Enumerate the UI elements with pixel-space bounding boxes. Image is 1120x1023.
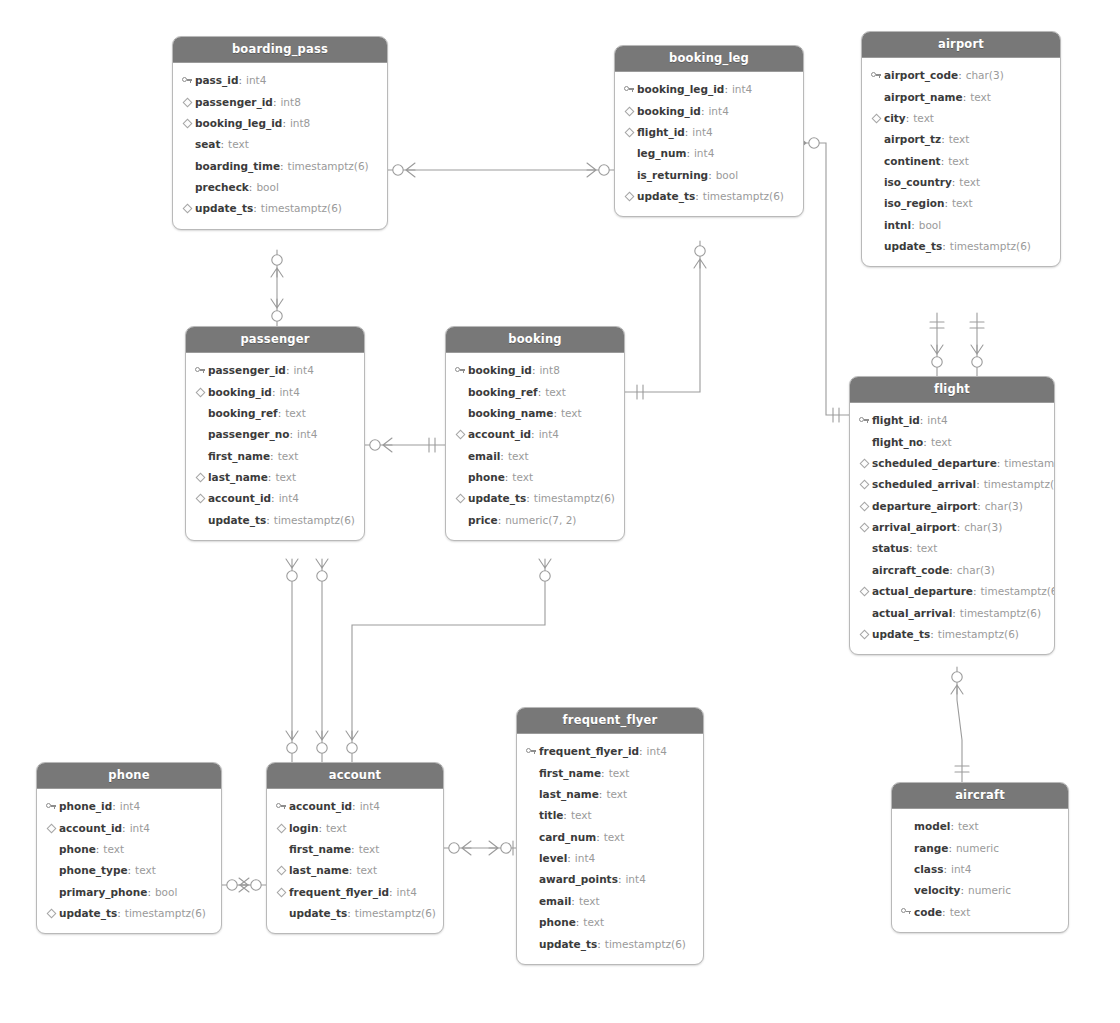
field-row[interactable]: aircraft_code:char(3) <box>850 560 1054 581</box>
field-row[interactable]: booking_id:int4 <box>615 100 803 121</box>
field-row[interactable]: account_id:int4 <box>186 488 364 509</box>
entity-title[interactable]: phone <box>37 763 221 789</box>
field-row[interactable]: pass_id:int4 <box>173 70 387 91</box>
entity-title[interactable]: frequent_flyer <box>517 708 703 734</box>
field-row[interactable]: update_ts:timestamptz(6) <box>37 903 221 924</box>
field-row[interactable]: seat:text <box>173 134 387 155</box>
field-row[interactable]: level:int4 <box>517 848 703 869</box>
field-row[interactable]: phone_type:text <box>37 860 221 881</box>
field-row[interactable]: award_points:int4 <box>517 869 703 890</box>
field-row[interactable]: booking_id:int8 <box>446 360 624 381</box>
field-row[interactable]: model:text <box>892 816 1068 837</box>
field-row[interactable]: precheck:bool <box>173 177 387 198</box>
field-row[interactable]: update_ts:timestamptz(6) <box>186 510 364 531</box>
field-row[interactable]: card_num:text <box>517 827 703 848</box>
entity-passenger[interactable]: passengerpassenger_id:int4booking_id:int… <box>185 326 365 541</box>
field-row[interactable]: last_name:text <box>267 860 443 881</box>
field-row[interactable]: arrival_airport:char(3) <box>850 517 1054 538</box>
field-row[interactable]: phone_id:int4 <box>37 796 221 817</box>
field-row[interactable]: code:text <box>892 902 1068 923</box>
field-row[interactable]: title:text <box>517 805 703 826</box>
entity-title[interactable]: booking <box>446 327 624 353</box>
entity-title[interactable]: airport <box>862 32 1060 58</box>
field-row[interactable]: flight_id:int4 <box>850 410 1054 431</box>
field-row[interactable]: email:text <box>517 891 703 912</box>
field-row[interactable]: airport_code:char(3) <box>862 65 1060 86</box>
field-row[interactable]: last_name:text <box>186 467 364 488</box>
field-row[interactable]: airport_tz:text <box>862 129 1060 150</box>
entity-frequent_flyer[interactable]: frequent_flyerfrequent_flyer_id:int4firs… <box>516 707 704 965</box>
field-row[interactable]: scheduled_departure:timestamptz(6) <box>850 453 1054 474</box>
entity-title[interactable]: aircraft <box>892 783 1068 809</box>
field-row[interactable]: passenger_no:int4 <box>186 424 364 445</box>
field-row[interactable]: booking_id:int4 <box>186 381 364 402</box>
field-row[interactable]: first_name:text <box>186 446 364 467</box>
field-row[interactable]: phone:text <box>446 467 624 488</box>
entity-title[interactable]: passenger <box>186 327 364 353</box>
field-row[interactable]: login:text <box>267 817 443 838</box>
field-row[interactable]: price:numeric(7, 2) <box>446 510 624 531</box>
field-row[interactable]: update_ts:timestamptz(6) <box>517 933 703 954</box>
entity-aircraft[interactable]: aircraftmodel:textrange:numericclass:int… <box>891 782 1069 933</box>
field-row[interactable]: passenger_id:int4 <box>186 360 364 381</box>
field-row[interactable]: is_returning:bool <box>615 165 803 186</box>
field-name: phone <box>59 843 96 856</box>
field-row[interactable]: email:text <box>446 446 624 467</box>
field-row[interactable]: flight_id:int4 <box>615 122 803 143</box>
field-row[interactable]: phone:text <box>517 912 703 933</box>
field-row[interactable]: continent:text <box>862 151 1060 172</box>
field-type: int4 <box>130 822 150 835</box>
field-row[interactable]: city:text <box>862 108 1060 129</box>
field-row[interactable]: range:numeric <box>892 837 1068 858</box>
field-row[interactable]: account_id:int4 <box>37 817 221 838</box>
entity-account[interactable]: accountaccount_id:int4login:textfirst_na… <box>266 762 444 934</box>
field-row[interactable]: flight_no:text <box>850 431 1054 452</box>
entity-title[interactable]: flight <box>850 377 1054 403</box>
field-row[interactable]: booking_leg_id:int8 <box>173 113 387 134</box>
entity-title[interactable]: boarding_pass <box>173 37 387 63</box>
field-row[interactable]: scheduled_arrival:timestamptz(6) <box>850 474 1054 495</box>
field-row[interactable]: booking_name:text <box>446 403 624 424</box>
field-row[interactable]: update_ts:timestamptz(6) <box>173 198 387 219</box>
field-row[interactable]: velocity:numeric <box>892 880 1068 901</box>
field-row[interactable]: first_name:text <box>267 839 443 860</box>
field-row[interactable]: actual_departure:timestamptz(6) <box>850 581 1054 602</box>
entity-boarding_pass[interactable]: boarding_passpass_id:int4passenger_id:in… <box>172 36 388 230</box>
field-row[interactable]: last_name:text <box>517 784 703 805</box>
field-row[interactable]: frequent_flyer_id:int4 <box>517 741 703 762</box>
entity-phone[interactable]: phonephone_id:int4account_id:int4phone:t… <box>36 762 222 934</box>
field-row[interactable]: account_id:int4 <box>267 796 443 817</box>
field-type: int4 <box>575 852 595 865</box>
entity-title[interactable]: account <box>267 763 443 789</box>
entity-airport[interactable]: airportairport_code:char(3)airport_name:… <box>861 31 1061 267</box>
field-row[interactable]: airport_name:text <box>862 86 1060 107</box>
field-row[interactable]: primary_phone:bool <box>37 882 221 903</box>
field-row[interactable]: iso_region:text <box>862 193 1060 214</box>
field-row[interactable]: boarding_time:timestamptz(6) <box>173 156 387 177</box>
field-row[interactable]: intnl:bool <box>862 215 1060 236</box>
field-row[interactable]: passenger_id:int8 <box>173 91 387 112</box>
entity-title[interactable]: booking_leg <box>615 46 803 72</box>
field-row[interactable]: status:text <box>850 538 1054 559</box>
field-row[interactable]: booking_ref:text <box>446 381 624 402</box>
entity-booking[interactable]: bookingbooking_id:int8booking_ref:textbo… <box>445 326 625 541</box>
field-row[interactable]: update_ts:timestamptz(6) <box>446 488 624 509</box>
field-row[interactable]: leg_num:int4 <box>615 143 803 164</box>
field-row[interactable]: first_name:text <box>517 762 703 783</box>
field-row[interactable]: booking_ref:text <box>186 403 364 424</box>
field-row[interactable]: actual_arrival:timestamptz(6) <box>850 602 1054 623</box>
field-row[interactable]: class:int4 <box>892 859 1068 880</box>
field-name: aircraft_code <box>872 564 949 577</box>
field-row[interactable]: departure_airport:char(3) <box>850 496 1054 517</box>
field-row[interactable]: account_id:int4 <box>446 424 624 445</box>
field-row[interactable]: update_ts:timestamptz(6) <box>267 903 443 924</box>
field-row[interactable]: update_ts:timestamptz(6) <box>850 624 1054 645</box>
field-row[interactable]: update_ts:timestamptz(6) <box>615 186 803 207</box>
field-row[interactable]: iso_country:text <box>862 172 1060 193</box>
field-row[interactable]: phone:text <box>37 839 221 860</box>
field-row[interactable]: frequent_flyer_id:int4 <box>267 882 443 903</box>
field-row[interactable]: booking_leg_id:int4 <box>615 79 803 100</box>
field-row[interactable]: update_ts:timestamptz(6) <box>862 236 1060 257</box>
entity-flight[interactable]: flightflight_id:int4flight_no:textschedu… <box>849 376 1055 655</box>
entity-booking_leg[interactable]: booking_legbooking_leg_id:int4booking_id… <box>614 45 804 217</box>
